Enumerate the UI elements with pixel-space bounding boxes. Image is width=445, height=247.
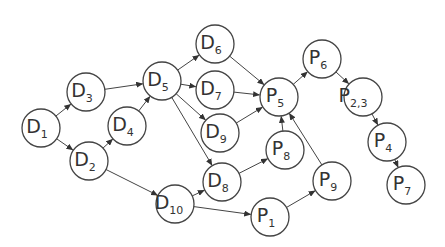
edge-p5-to-p6	[293, 72, 307, 85]
edge-d4-to-d5	[139, 96, 150, 111]
node-p23: P2,3	[339, 78, 382, 116]
edge-d9-to-p5	[236, 107, 262, 123]
edge-d5-to-d7	[181, 84, 196, 87]
edge-p8-to-p5	[281, 116, 283, 131]
node-d7: D7	[196, 71, 234, 109]
edge-d1-to-d3	[56, 104, 71, 116]
edge-d7-to-p5	[234, 92, 260, 95]
node-d2: D2	[70, 142, 108, 180]
edge-p23-to-p4	[372, 114, 378, 125]
edge-p1-to-p9	[286, 191, 315, 208]
node-p9: P9	[313, 162, 351, 200]
node-d6: D6	[196, 25, 234, 63]
edge-p4-to-p7	[395, 159, 398, 167]
edge-d5-to-d6	[178, 55, 199, 70]
node-d10: D10	[155, 185, 194, 223]
nodes-layer: D1D2D3D4D5D6D7D8D9D10P1P2,3P4P5P6P7P8P9	[22, 25, 425, 236]
edge-d2-to-d4	[103, 139, 113, 148]
node-p5: P5	[260, 78, 298, 116]
edge-d8-to-p8	[239, 159, 268, 174]
node-d3: D3	[67, 73, 105, 111]
node-d4: D4	[108, 107, 146, 145]
edge-d3-to-d5	[105, 84, 143, 90]
edge-d10-to-p1	[194, 207, 251, 215]
node-p1: P1	[251, 198, 289, 236]
node-p8: P8	[266, 131, 304, 169]
node-d5: D5	[143, 62, 181, 100]
node-p4: P4	[368, 123, 406, 161]
node-p7: P7	[387, 166, 425, 204]
node-d8: D8	[203, 163, 241, 201]
node-d9: D9	[201, 114, 239, 152]
node-p6: P6	[303, 40, 341, 78]
edge-d6-to-p5	[230, 56, 264, 85]
edge-d10-to-d8	[192, 190, 204, 196]
edge-d1-to-d2	[57, 139, 73, 150]
edge-p6-to-p23	[336, 72, 349, 84]
precedence-graph: D1D2D3D4D5D6D7D8D9D10P1P2,3P4P5P6P7P8P9	[0, 0, 445, 247]
node-d1: D1	[22, 109, 60, 147]
edge-d2-to-d10	[106, 170, 158, 196]
